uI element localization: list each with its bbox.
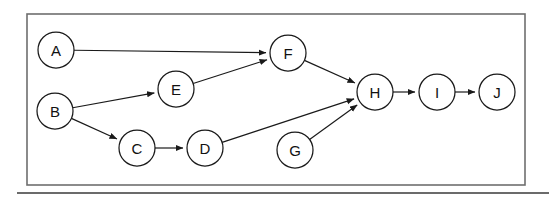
node-c[interactable]: C bbox=[119, 130, 155, 166]
node-label-i: I bbox=[435, 84, 439, 101]
node-label-j: J bbox=[493, 84, 501, 101]
node-label-f: F bbox=[283, 45, 292, 62]
graph-svg: ABCDEFGHIJ bbox=[0, 0, 549, 198]
node-f[interactable]: F bbox=[270, 35, 306, 71]
node-d[interactable]: D bbox=[187, 130, 223, 166]
edge-e-to-f bbox=[193, 60, 267, 84]
node-label-c: C bbox=[132, 140, 143, 157]
edge-g-to-h bbox=[310, 105, 358, 140]
node-label-e: E bbox=[171, 81, 181, 98]
node-label-a: A bbox=[51, 42, 61, 59]
node-a[interactable]: A bbox=[38, 32, 74, 68]
node-layer: ABCDEFGHIJ bbox=[37, 32, 515, 168]
edge-b-to-c bbox=[71, 118, 117, 139]
edge-a-to-f bbox=[74, 50, 266, 52]
node-label-b: B bbox=[50, 103, 60, 120]
node-i[interactable]: I bbox=[419, 74, 455, 110]
node-j[interactable]: J bbox=[479, 74, 515, 110]
node-b[interactable]: B bbox=[37, 93, 73, 129]
diagram-canvas: ABCDEFGHIJ bbox=[0, 0, 549, 198]
node-label-g: G bbox=[289, 142, 301, 159]
node-e[interactable]: E bbox=[158, 71, 194, 107]
edge-b-to-e bbox=[73, 93, 155, 108]
edge-f-to-h bbox=[304, 60, 354, 83]
node-g[interactable]: G bbox=[277, 132, 313, 168]
node-h[interactable]: H bbox=[357, 74, 393, 110]
node-label-h: H bbox=[370, 84, 381, 101]
node-label-d: D bbox=[200, 140, 211, 157]
